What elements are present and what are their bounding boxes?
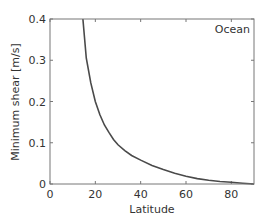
y-axis-ticks: 00.10.20.30.4 [29, 13, 255, 191]
x-axis-label: Latitude [129, 203, 175, 216]
line-chart: 020406080 00.10.20.30.4 Ocean Latitude M… [0, 0, 266, 219]
y-axis-label: Minimum shear [m/s] [9, 43, 22, 160]
x-tick-label: 0 [47, 188, 54, 201]
x-axis-ticks: 020406080 [47, 19, 239, 201]
x-tick-label: 80 [224, 188, 238, 201]
y-tick-label: 0.1 [29, 137, 47, 150]
y-tick-label: 0.4 [29, 13, 47, 26]
x-tick-label: 20 [88, 188, 102, 201]
x-tick-label: 40 [134, 188, 148, 201]
y-tick-label: 0.2 [29, 96, 47, 109]
ocean-annotation: Ocean [215, 23, 250, 36]
y-tick-label: 0.3 [29, 54, 47, 67]
ocean-curve [83, 19, 254, 184]
x-tick-label: 60 [179, 188, 193, 201]
y-tick-label: 0 [39, 178, 46, 191]
axes-frame [50, 19, 254, 184]
